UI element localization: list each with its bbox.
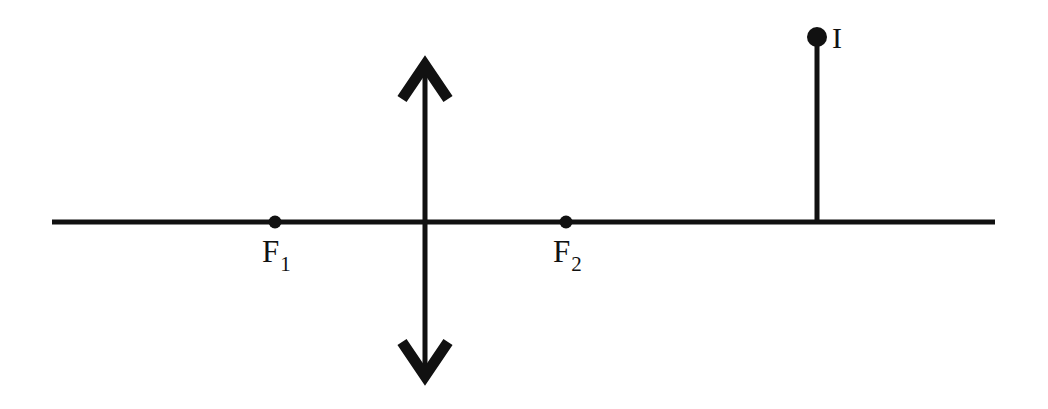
image-point-dot xyxy=(807,27,827,47)
diagram-svg xyxy=(0,0,1048,409)
focal-point-f1-dot xyxy=(269,216,282,229)
lens-diagram-canvas: F1 F2 I xyxy=(0,0,1048,409)
focal-point-f2-dot xyxy=(560,216,573,229)
